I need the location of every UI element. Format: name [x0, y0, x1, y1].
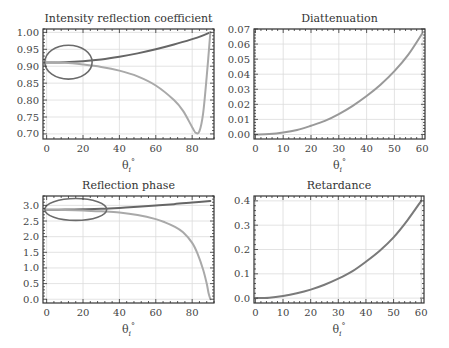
svg-text:60: 60 [416, 143, 429, 154]
svg-text:40: 40 [360, 143, 373, 154]
svg-text:0.07: 0.07 [228, 24, 250, 35]
svg-text:60: 60 [149, 307, 162, 318]
svg-text:0: 0 [43, 307, 49, 318]
svg-text:60: 60 [415, 307, 428, 318]
chart-title: Retardance [307, 179, 371, 192]
gridlines [43, 196, 214, 303]
figure-canvas: Intensity reflection coefficient02040608… [0, 0, 449, 348]
svg-text:0.80: 0.80 [17, 95, 39, 106]
svg-text:0.70: 0.70 [17, 128, 39, 139]
x-tick-labels: 020406080 [43, 307, 198, 318]
svg-text:0.0: 0.0 [23, 294, 39, 305]
svg-text:0.2: 0.2 [234, 244, 250, 255]
svg-text:2.5: 2.5 [23, 216, 39, 227]
svg-text:0.75: 0.75 [17, 112, 39, 123]
plot-frame [43, 196, 214, 303]
svg-text:80: 80 [186, 143, 199, 154]
svg-text:60: 60 [149, 143, 162, 154]
x-axis-label: θi° [333, 157, 346, 174]
svg-text:1.00: 1.00 [17, 27, 39, 38]
svg-text:0.02: 0.02 [228, 99, 250, 110]
svg-text:0.06: 0.06 [228, 39, 250, 50]
svg-text:30: 30 [332, 143, 345, 154]
svg-text:1.0: 1.0 [23, 262, 39, 273]
svg-text:40: 40 [113, 143, 126, 154]
y-tick-labels: 0.700.750.800.850.900.951.00 [17, 27, 39, 140]
plot-area [47, 201, 211, 299]
svg-text:0.0: 0.0 [234, 293, 250, 304]
series-line-phi_p [47, 210, 211, 299]
y-tick-labels: 0.000.010.020.030.040.050.060.07 [228, 24, 250, 140]
x-tick-labels: 0102030405060 [252, 143, 428, 154]
series-line-Rs [47, 32, 211, 62]
svg-text:0.04: 0.04 [228, 69, 250, 80]
svg-text:20: 20 [77, 307, 90, 318]
chart-intensity: Intensity reflection coefficient02040608… [17, 12, 214, 174]
svg-text:0.95: 0.95 [17, 44, 39, 55]
x-tick-labels: 020406080 [43, 143, 198, 154]
gridlines [254, 29, 425, 139]
svg-text:0.90: 0.90 [17, 61, 39, 72]
svg-text:10: 10 [277, 307, 290, 318]
svg-text:20: 20 [305, 143, 318, 154]
svg-text:0.5: 0.5 [23, 278, 39, 289]
plot-frame [254, 29, 425, 139]
svg-text:2.0: 2.0 [23, 231, 39, 242]
svg-text:40: 40 [113, 307, 126, 318]
svg-text:50: 50 [388, 143, 401, 154]
chart-diattenuation: Diattenuation01020304050600.000.010.020.… [228, 12, 429, 174]
svg-text:0.1: 0.1 [234, 268, 250, 279]
svg-text:50: 50 [387, 307, 400, 318]
x-axis-label: θi° [122, 157, 135, 174]
x-axis-label: θi° [122, 321, 135, 338]
svg-text:0.03: 0.03 [228, 84, 250, 95]
svg-text:10: 10 [277, 143, 290, 154]
svg-text:0.3: 0.3 [234, 220, 250, 231]
svg-text:0.05: 0.05 [228, 54, 250, 65]
svg-text:0.85: 0.85 [17, 78, 39, 89]
chart-retardance: Retardance01020304050600.00.10.20.30.4θi… [234, 179, 428, 338]
tick-marks [43, 196, 214, 303]
svg-text:0.00: 0.00 [228, 129, 250, 140]
svg-text:0.4: 0.4 [234, 195, 250, 206]
svg-text:1.5: 1.5 [23, 247, 39, 258]
svg-text:0: 0 [43, 143, 49, 154]
svg-text:0: 0 [252, 307, 258, 318]
svg-text:80: 80 [186, 307, 199, 318]
svg-text:40: 40 [360, 307, 373, 318]
gridlines [254, 196, 424, 303]
tick-marks [254, 29, 425, 139]
svg-text:20: 20 [77, 143, 90, 154]
chart-title: Intensity reflection coefficient [45, 12, 214, 25]
y-tick-labels: 0.00.10.20.30.4 [234, 195, 250, 303]
svg-text:0: 0 [252, 143, 258, 154]
chart-title: Diattenuation [301, 12, 378, 25]
svg-text:3.0: 3.0 [23, 200, 39, 211]
svg-text:20: 20 [304, 307, 317, 318]
x-axis-label: θi° [332, 321, 345, 338]
svg-text:30: 30 [332, 307, 345, 318]
svg-text:0.01: 0.01 [228, 114, 250, 125]
chart-phase: Reflection phase0204060800.00.51.01.52.0… [23, 179, 214, 338]
x-tick-labels: 0102030405060 [252, 307, 427, 318]
y-tick-labels: 0.00.51.01.52.02.53.0 [23, 200, 39, 305]
chart-title: Reflection phase [82, 179, 175, 192]
